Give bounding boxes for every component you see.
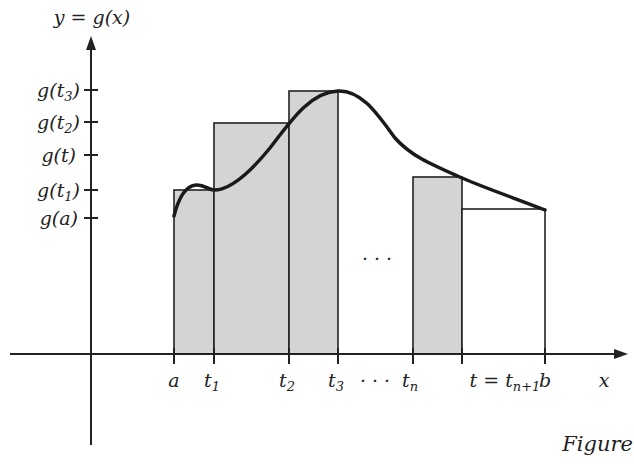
x-label-a: a [168, 369, 179, 391]
x-label-t1: t1 [204, 369, 220, 394]
x-label-tn: tn [402, 369, 418, 394]
rect-a-t1 [174, 190, 214, 354]
y-axis-arrow-icon [86, 36, 96, 50]
y-label-g-t1: g(t1) [37, 179, 80, 204]
x-label-t3: t3 [328, 369, 344, 394]
x-axis-arrow-icon [614, 349, 628, 359]
y-label-g-t3: g(t3) [37, 79, 80, 104]
y-label-g-t: g(t) [41, 144, 76, 166]
y-label-g-t2: g(t2) [37, 111, 80, 136]
figure-caption: Figure [561, 432, 633, 456]
rect-t1-t2 [214, 123, 289, 354]
rectangles [174, 91, 545, 354]
rect-t2-t3 [289, 91, 338, 354]
x-axis-label: x [599, 369, 610, 391]
middle-ellipsis: · · · [362, 247, 392, 269]
rect-tn-t [413, 177, 462, 354]
x-label-t-eq-tn1: t = tn+1 [470, 369, 541, 394]
y-label-g-a: g(a) [40, 207, 78, 229]
x-axis-ellipsis: · · · [360, 369, 390, 391]
x-label-b: b [539, 369, 551, 391]
x-label-t2: t2 [279, 369, 295, 394]
function-label: y = g(x) [53, 6, 130, 28]
riemann-sum-diagram: y = g(x) g(t3) g(t2) g(t) g(t1) g(a) a t… [0, 0, 634, 464]
rect-t-b [462, 209, 545, 354]
